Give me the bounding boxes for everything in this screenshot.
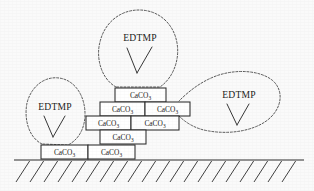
ground-hatch-stroke xyxy=(282,161,296,182)
ground-hatch-stroke xyxy=(268,161,282,182)
ground-hatch-stroke xyxy=(58,161,72,182)
scale-formula-prefix: CaCO xyxy=(112,104,131,113)
edtmp-blob-left-label: EDTMP xyxy=(38,101,71,112)
scale-formula-subscript: 3 xyxy=(119,152,122,158)
scale-formula-subscript: 3 xyxy=(163,123,166,129)
scale-formula-prefix: CaCO xyxy=(101,147,120,156)
scale-formula-subscript: 3 xyxy=(116,123,119,129)
ground-hatch-stroke xyxy=(170,161,184,182)
edtmp-blob-right-outline xyxy=(179,71,280,132)
scale-formula-subscript: 3 xyxy=(131,137,134,143)
edtmp-blob-top-vee-right xyxy=(137,47,152,73)
ground-hatch-stroke xyxy=(142,161,156,182)
scale-formula-subscript: 3 xyxy=(175,109,178,115)
ground-hatch-stroke xyxy=(212,161,226,182)
ground-hatch-stroke xyxy=(128,161,142,182)
scale-formula-subscript: 3 xyxy=(148,95,151,101)
edtmp-blob-right-vee-right xyxy=(237,104,249,125)
ground-hatch-stroke xyxy=(72,161,86,182)
ground-hatch-stroke xyxy=(30,161,44,182)
scale-formula-subscript: 3 xyxy=(72,152,75,158)
edtmp-blob-left-vee-right xyxy=(53,116,65,137)
ground-hatch-stroke xyxy=(240,161,254,182)
ground-hatch-stroke xyxy=(16,161,30,182)
scale-formula-subscript: 3 xyxy=(130,109,133,115)
edtmp-blob-right-label: EDTMP xyxy=(222,89,255,100)
edtmp-blob-right-vee-left xyxy=(227,104,237,125)
ground-hatch-stroke xyxy=(156,161,170,182)
ground-hatch-stroke xyxy=(254,161,268,182)
ground-hatch-stroke xyxy=(198,161,212,182)
ground-hatch-stroke xyxy=(100,161,114,182)
diagram-canvas: CaCO3CaCO3CaCO3CaCO3CaCO3CaCO3CaCO3CaCO3… xyxy=(0,0,314,191)
substrate-layer xyxy=(14,160,304,182)
edtmp-blob-left-vee-left xyxy=(44,116,53,137)
ground-hatch-stroke xyxy=(226,161,240,182)
edtmp-blob-top-label: EDTMP xyxy=(123,32,156,43)
edtmp-scale-diagram: CaCO3CaCO3CaCO3CaCO3CaCO3CaCO3CaCO3CaCO3… xyxy=(0,0,314,191)
ground-hatch-stroke xyxy=(86,161,100,182)
scale-formula-prefix: CaCO xyxy=(144,118,163,127)
scale-formula-prefix: CaCO xyxy=(157,104,176,113)
scale-formula-prefix: CaCO xyxy=(54,147,73,156)
scale-brick-layer: CaCO3CaCO3CaCO3CaCO3CaCO3CaCO3CaCO3CaCO3 xyxy=(41,88,190,159)
edtmp-blob-top-outline xyxy=(99,10,178,87)
ground-hatch-stroke xyxy=(44,161,58,182)
scale-formula-prefix: CaCO xyxy=(98,118,117,127)
ground-hatch-stroke xyxy=(114,161,128,182)
edtmp-blob-top-vee-left xyxy=(127,48,137,73)
scale-formula-prefix: CaCO xyxy=(112,132,131,141)
scale-formula-prefix: CaCO xyxy=(130,90,149,99)
ground-hatch-stroke xyxy=(184,161,198,182)
